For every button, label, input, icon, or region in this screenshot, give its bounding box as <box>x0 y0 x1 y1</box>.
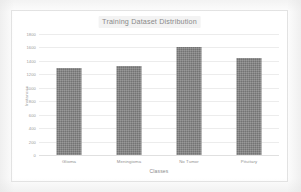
y-axis-tick-label: 200 <box>29 139 36 144</box>
x-axis-title: Classes <box>39 168 279 174</box>
y-axis-tick-label: 600 <box>29 112 36 117</box>
x-axis-tick-label: Pituitary <box>241 159 257 164</box>
x-axis-tick-label: No Tumor <box>179 159 199 164</box>
y-axis-tick-label: 400 <box>29 126 36 131</box>
y-axis-title: Instances <box>24 86 29 106</box>
bar <box>177 47 202 155</box>
bar <box>57 68 82 155</box>
bar <box>117 66 142 155</box>
bar <box>237 58 262 155</box>
x-axis-tick-label: Glioma <box>62 159 76 164</box>
chart-frame: Training Dataset Distribution 1800160014… <box>11 10 288 182</box>
y-axis-tick-label: 1800 <box>26 32 36 37</box>
y-axis-tick-label: 1200 <box>26 72 36 77</box>
bars-layer: GliomaMeningiomaNo TumorPituitary <box>39 34 279 155</box>
chart-title: Training Dataset Distribution <box>98 16 201 28</box>
chart-figure: Training Dataset Distribution 1800160014… <box>0 0 301 192</box>
bar-group: Pituitary <box>219 34 279 155</box>
plot-area: 180016001400120010008006004002000 Glioma… <box>39 34 279 155</box>
bar-group: Glioma <box>39 34 99 155</box>
gridline <box>39 155 279 156</box>
y-axis-tick-label: 1600 <box>26 45 36 50</box>
y-axis-tick-label: 1400 <box>26 58 36 63</box>
x-axis-tick-label: Meningioma <box>117 159 141 164</box>
bar-group: Meningioma <box>99 34 159 155</box>
y-axis-tick-label: 800 <box>29 99 36 104</box>
y-axis-tick-label: 0 <box>34 153 36 158</box>
bar-group: No Tumor <box>159 34 219 155</box>
